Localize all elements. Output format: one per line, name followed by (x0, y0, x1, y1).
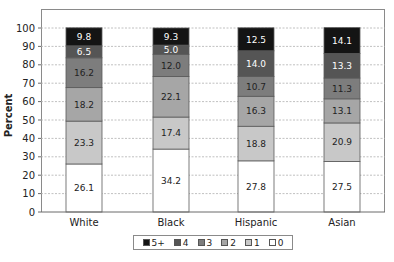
legend-item-3: 3 (198, 238, 213, 248)
data-label: 6.5 (77, 47, 91, 57)
data-label: 22.1 (161, 92, 181, 102)
data-label: 16.3 (246, 106, 266, 116)
legend-swatch-icon (198, 239, 205, 246)
data-label: 14.1 (332, 36, 352, 46)
legend-item-5plus: 5+ (143, 238, 165, 248)
data-label: 18.2 (74, 100, 94, 110)
legend-label: 2 (230, 238, 236, 248)
legend-label: 1 (254, 238, 260, 248)
data-label: 27.5 (332, 182, 352, 192)
legend-swatch-icon (143, 239, 150, 246)
legend-label: 3 (207, 238, 213, 248)
stacked-bar-chart: 0102030405060708090100 26.123.318.216.26… (0, 0, 394, 262)
data-label: 13.1 (332, 106, 352, 116)
data-label: 9.8 (77, 32, 92, 42)
data-label: 10.7 (246, 82, 266, 92)
data-label: 12.5 (246, 35, 266, 45)
legend-swatch-icon (245, 239, 252, 246)
data-label: 9.3 (164, 32, 178, 42)
x-axis-labels: WhiteBlackHispanicAsian (69, 217, 355, 228)
data-label: 20.9 (332, 137, 352, 147)
data-label: 26.1 (74, 183, 94, 193)
data-label: 16.2 (74, 68, 94, 78)
legend-item-1: 1 (245, 238, 260, 248)
legend-swatch-icon (269, 239, 276, 246)
y-tick-label: 10 (22, 188, 35, 199)
legend-item-2: 2 (221, 238, 236, 248)
legend-item-4: 4 (174, 238, 189, 248)
data-label: 13.3 (332, 61, 352, 71)
data-label: 5.0 (164, 45, 179, 55)
legend: 5+ 4 3 2 1 0 (133, 235, 293, 250)
bar-black: 34.217.422.112.05.09.3 (153, 28, 189, 212)
data-label: 12.0 (161, 61, 181, 71)
x-tick-label: White (69, 217, 98, 228)
bar-asian: 27.520.913.111.313.314.1 (324, 28, 360, 212)
data-label: 34.2 (161, 176, 181, 186)
y-axis-label: Percent (3, 86, 14, 146)
x-tick-label: Asian (328, 217, 355, 228)
legend-label: 5+ (152, 238, 165, 248)
legend-swatch-icon (174, 239, 181, 246)
x-tick-label: Black (157, 217, 184, 228)
data-label: 18.8 (246, 139, 266, 149)
data-label: 23.3 (74, 138, 94, 148)
y-axis-ticks: 0102030405060708090100 (16, 23, 41, 218)
y-tick-label: 30 (22, 151, 35, 162)
legend-label: 0 (278, 238, 284, 248)
y-tick-label: 70 (22, 78, 35, 89)
data-label: 11.3 (332, 84, 352, 94)
data-label: 27.8 (246, 182, 266, 192)
y-tick-label: 20 (22, 170, 35, 181)
y-tick-label: 50 (22, 115, 35, 126)
y-tick-label: 0 (29, 207, 35, 218)
y-tick-label: 40 (22, 133, 35, 144)
y-tick-label: 80 (22, 59, 35, 70)
legend-swatch-icon (221, 239, 228, 246)
bar-white: 26.123.318.216.26.59.8 (66, 28, 102, 212)
data-label: 14.0 (246, 59, 266, 69)
y-tick-label: 60 (22, 96, 35, 107)
y-tick-label: 100 (16, 23, 35, 34)
legend-item-0: 0 (269, 238, 284, 248)
y-tick-label: 90 (22, 41, 35, 52)
bar-hispanic: 27.818.816.310.714.012.5 (238, 28, 274, 212)
legend-label: 4 (183, 238, 189, 248)
data-label: 17.4 (161, 128, 181, 138)
x-tick-label: Hispanic (235, 217, 278, 228)
